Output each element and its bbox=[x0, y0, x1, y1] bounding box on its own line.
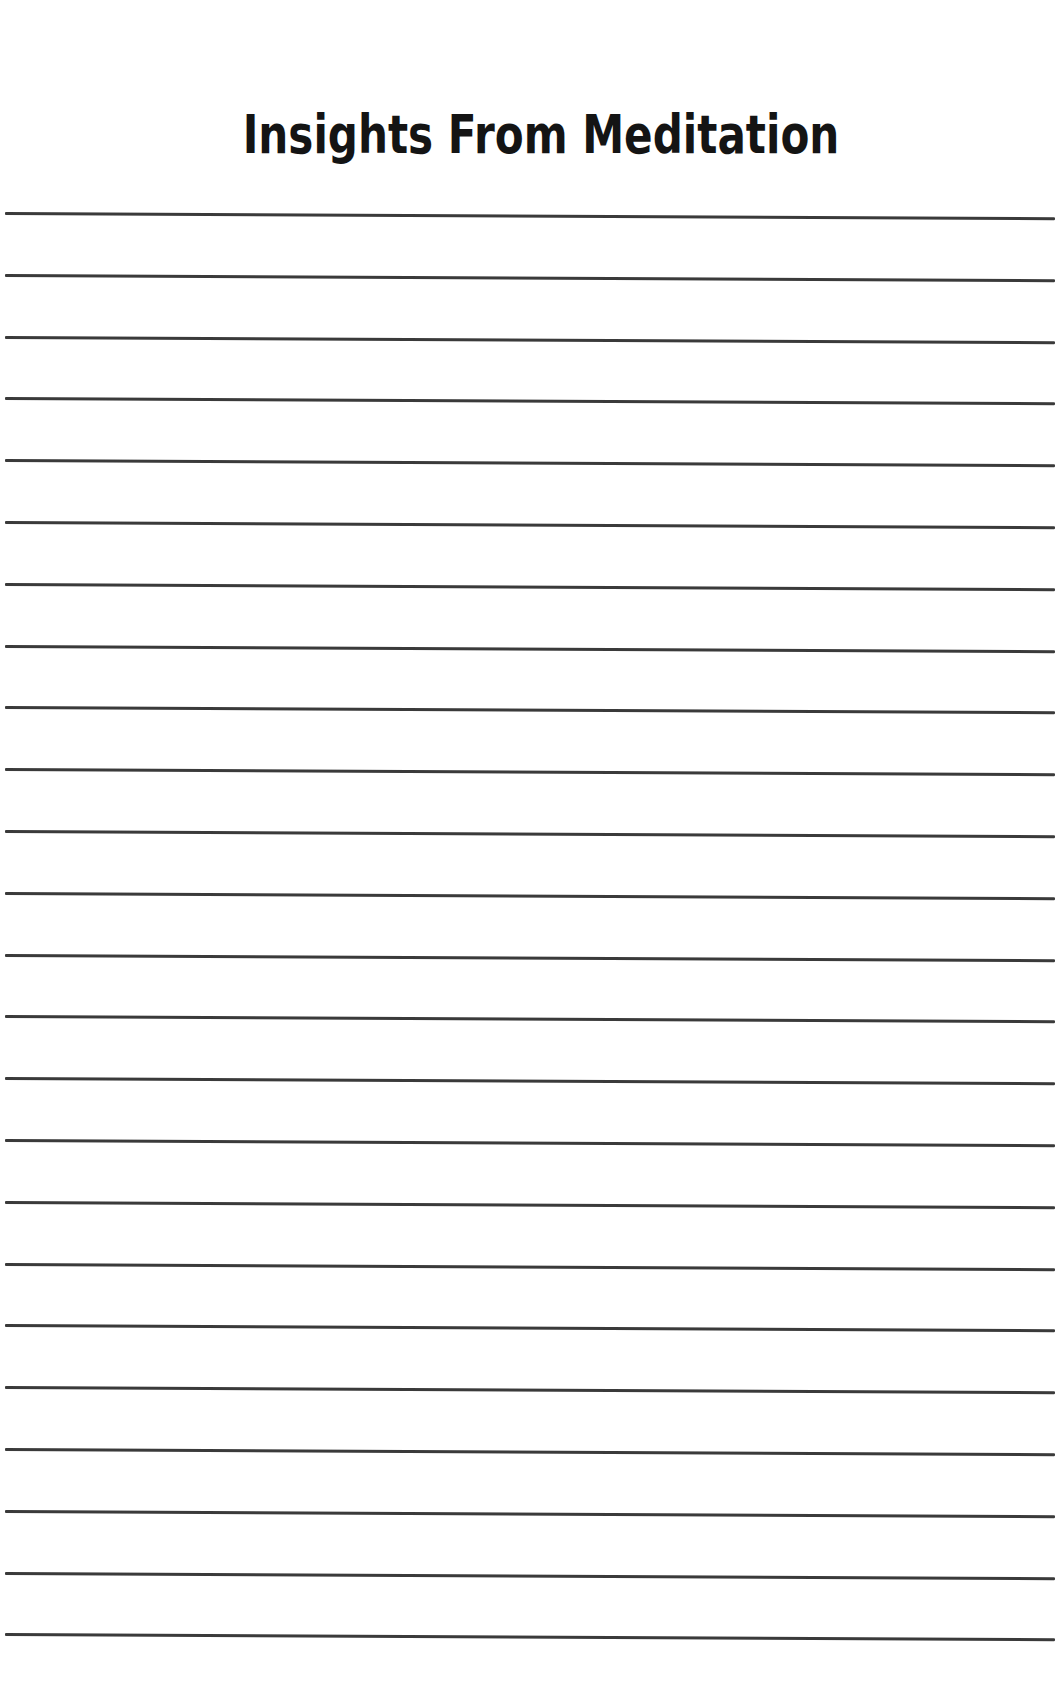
writing-line bbox=[5, 397, 1055, 405]
writing-line bbox=[5, 892, 1055, 900]
writing-line bbox=[5, 1077, 1055, 1085]
writing-line bbox=[5, 1324, 1055, 1332]
writing-line bbox=[5, 1448, 1055, 1456]
writing-line bbox=[5, 1633, 1055, 1641]
writing-line bbox=[5, 1139, 1055, 1147]
writing-line bbox=[5, 336, 1055, 344]
writing-line bbox=[5, 830, 1055, 838]
ruled-lines bbox=[0, 0, 1059, 1691]
writing-line bbox=[5, 645, 1055, 653]
writing-line bbox=[5, 583, 1055, 591]
writing-line bbox=[5, 1263, 1055, 1271]
writing-line bbox=[5, 1572, 1055, 1580]
writing-line bbox=[5, 521, 1055, 529]
writing-line bbox=[5, 212, 1055, 220]
writing-line bbox=[5, 1201, 1055, 1209]
writing-line bbox=[5, 1386, 1055, 1394]
journal-page: Insights From Meditation bbox=[0, 0, 1059, 1691]
writing-line bbox=[5, 1510, 1055, 1518]
writing-line bbox=[5, 706, 1055, 714]
writing-line bbox=[5, 768, 1055, 776]
writing-line bbox=[5, 274, 1055, 282]
writing-line bbox=[5, 954, 1055, 962]
writing-line bbox=[5, 1015, 1055, 1023]
writing-line bbox=[5, 459, 1055, 467]
